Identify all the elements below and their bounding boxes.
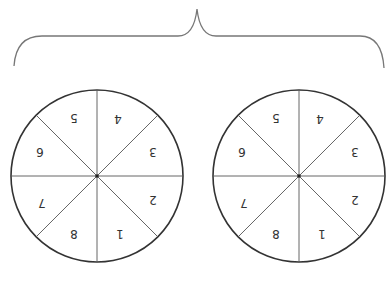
segment-label: 8 <box>272 227 280 241</box>
segment-label: 7 <box>240 196 248 210</box>
segment-label: 5 <box>272 111 280 125</box>
spinner-right: 1 2 3 4 5 6 7 8 <box>213 90 385 262</box>
diagram-canvas: 1 2 3 4 5 6 7 8 1 2 3 4 5 6 7 8 <box>0 0 391 281</box>
segment-label: 1 <box>318 227 326 241</box>
segment-label: 4 <box>114 112 122 126</box>
center-dot <box>95 174 99 178</box>
segment-label: 1 <box>116 227 124 241</box>
spinner-left: 1 2 3 4 5 6 7 8 <box>11 90 183 262</box>
segment-label: 3 <box>351 145 359 159</box>
segment-label: 2 <box>149 193 157 207</box>
segment-label: 2 <box>351 193 359 207</box>
curly-brace <box>14 9 384 68</box>
segment-label: 8 <box>70 227 78 241</box>
segment-label: 6 <box>36 145 44 159</box>
segment-label: 6 <box>238 145 246 159</box>
segment-label: 4 <box>316 112 324 126</box>
segment-label: 5 <box>70 111 78 125</box>
center-dot <box>297 174 301 178</box>
segment-label: 3 <box>149 145 157 159</box>
segment-label: 7 <box>38 196 46 210</box>
